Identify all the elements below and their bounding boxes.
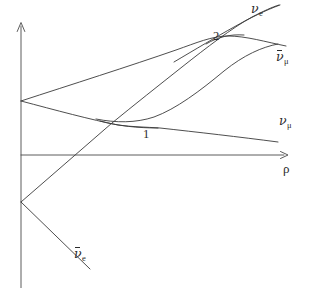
nubar-mu-subscript: μ [284,56,289,66]
nu-glyph: ν [251,1,259,16]
nu-glyph: ν [276,49,284,64]
nu-glyph: ν [74,246,82,261]
branch-label-nu-e: νe [251,3,262,16]
neutrino-level-crossing-figure: νe νμ νμ νe ρ 1 2 [0,0,315,288]
nu-mu-subscript: μ [287,120,292,130]
curve-resonance-lower-branch [96,44,278,122]
branch-label-nubar-mu: νμ [276,51,288,64]
nu-glyph: ν [279,113,287,128]
branch-label-nu-mu: νμ [279,115,291,128]
curve-nu-mu [21,101,278,142]
x-axis-label-rho: ρ [283,162,290,175]
axis-group [17,23,288,288]
nubar-mu-overbar-wrap: ν [276,51,284,64]
nubar-e-overbar-wrap: ν [74,248,82,261]
nubar-e-subscript: e [82,253,86,263]
plot-canvas [0,0,315,288]
nu-e-subscript: e [259,8,263,18]
eigenvalue-branches [21,5,286,269]
curve-nubar-mu [21,36,286,101]
branch-label-nubar-e: νe [74,248,85,261]
overbar-icon [75,247,81,248]
resonance-label-2: 2 [213,30,219,43]
resonance-label-1: 1 [143,128,149,141]
overbar-icon [277,50,283,51]
